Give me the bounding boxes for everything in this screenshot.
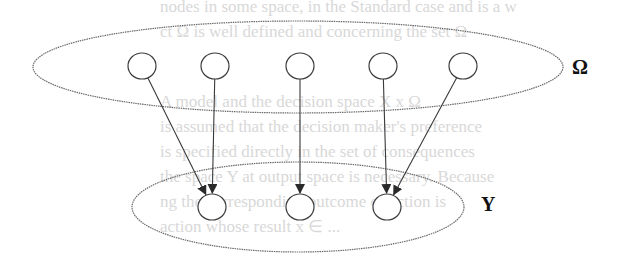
arrow-w2-to-y1: [212, 79, 214, 193]
node-w2: [201, 53, 229, 79]
node-y3: [373, 194, 401, 220]
node-w4: [369, 53, 397, 79]
node-w5: [449, 53, 477, 79]
mapping-arrows: [148, 77, 457, 194]
mapping-diagram: Ω Y: [0, 0, 624, 265]
arrow-w1-to-y1: [148, 78, 206, 195]
arrow-w4-to-y3: [383, 79, 386, 193]
node-y2: [286, 194, 314, 220]
node-y1: [198, 194, 226, 220]
node-w3: [286, 53, 314, 79]
y-label: Y: [481, 193, 496, 215]
y-nodes: [198, 194, 401, 220]
node-w1: [128, 53, 156, 79]
omega-nodes: [128, 53, 477, 79]
arrow-w5-to-y3: [394, 77, 457, 194]
omega-label: Ω: [572, 56, 588, 78]
